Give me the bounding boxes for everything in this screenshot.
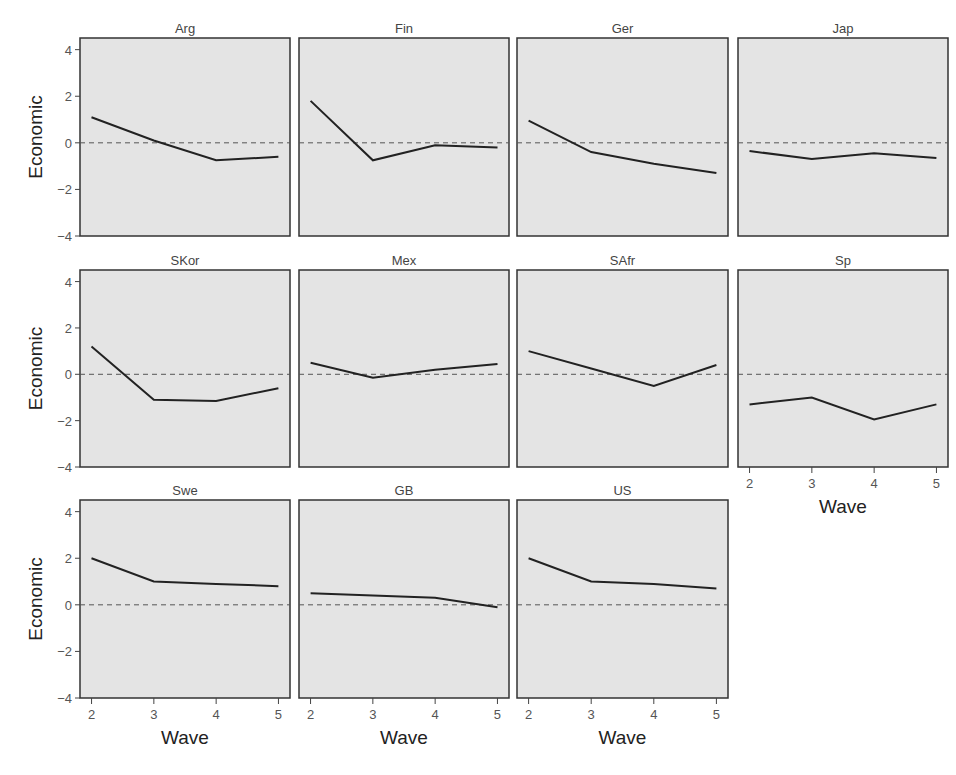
panel-title: Jap [833, 21, 854, 36]
panel-frame [299, 500, 509, 698]
panel-skor: SKor420−2−4Economic [25, 253, 290, 475]
x-tick-label: 2 [525, 707, 532, 722]
x-axis-label: Wave [819, 496, 867, 517]
x-tick-label: 2 [88, 707, 95, 722]
panel-us: US2345Wave [517, 483, 728, 748]
y-tick-label: −4 [57, 229, 72, 244]
y-tick-label: 4 [65, 505, 72, 520]
panel-frame [80, 38, 290, 236]
x-tick-label: 2 [746, 476, 753, 491]
y-tick-label: −2 [57, 182, 72, 197]
panel-arg: Arg420−2−4Economic [25, 21, 290, 244]
panel-title: Arg [175, 21, 195, 36]
panel-title: GB [395, 483, 414, 498]
panel-title: Fin [395, 21, 413, 36]
y-tick-label: −2 [57, 414, 72, 429]
panel-frame [738, 38, 948, 236]
x-tick-label: 5 [494, 707, 501, 722]
y-axis-label: Economic [25, 95, 46, 178]
panel-title: Swe [172, 483, 197, 498]
y-tick-label: 0 [65, 136, 72, 151]
panel-ger: Ger [517, 21, 728, 236]
panel-title: Mex [392, 253, 417, 268]
small-multiples-chart: Arg420−2−4EconomicFinGerJapSKor420−2−4Ec… [0, 0, 956, 775]
x-tick-label: 5 [275, 707, 282, 722]
x-tick-label: 4 [871, 476, 878, 491]
panel-gb: GB2345Wave [299, 483, 509, 748]
y-tick-label: 2 [65, 321, 72, 336]
x-tick-label: 3 [808, 476, 815, 491]
x-tick-label: 4 [650, 707, 657, 722]
panel-safr: SAfr [517, 253, 728, 467]
x-axis-label: Wave [599, 727, 647, 748]
panel-fin: Fin [299, 21, 509, 236]
panel-jap: Jap [738, 21, 948, 236]
panel-swe: Swe420−2−4Economic2345Wave [25, 483, 290, 748]
y-tick-label: 2 [65, 551, 72, 566]
x-tick-label: 3 [369, 707, 376, 722]
y-tick-label: 4 [65, 275, 72, 290]
x-tick-label: 5 [933, 476, 940, 491]
panel-frame [80, 270, 290, 467]
x-tick-label: 3 [588, 707, 595, 722]
panel-frame [517, 270, 728, 467]
y-tick-label: 0 [65, 598, 72, 613]
panel-frame [80, 500, 290, 698]
panel-title: US [613, 483, 631, 498]
panel-frame [517, 500, 728, 698]
panel-title: Sp [835, 253, 851, 268]
y-tick-label: −4 [57, 691, 72, 706]
y-tick-label: 0 [65, 367, 72, 382]
x-tick-label: 4 [432, 707, 439, 722]
y-axis-label: Economic [25, 557, 46, 640]
panel-title: SAfr [610, 253, 636, 268]
panel-mex: Mex [299, 253, 509, 467]
panel-frame [299, 38, 509, 236]
x-axis-label: Wave [380, 727, 428, 748]
x-axis-label: Wave [161, 727, 209, 748]
panel-title: Ger [612, 21, 634, 36]
y-tick-label: −2 [57, 644, 72, 659]
y-tick-label: 2 [65, 89, 72, 104]
y-tick-label: −4 [57, 460, 72, 475]
panel-frame [517, 38, 728, 236]
x-tick-label: 4 [213, 707, 220, 722]
x-tick-label: 5 [713, 707, 720, 722]
panel-frame [738, 270, 948, 467]
y-axis-label: Economic [25, 327, 46, 410]
panel-sp: Sp2345Wave [738, 253, 948, 517]
x-tick-label: 2 [307, 707, 314, 722]
y-tick-label: 4 [65, 43, 72, 58]
panel-title: SKor [171, 253, 201, 268]
x-tick-label: 3 [150, 707, 157, 722]
